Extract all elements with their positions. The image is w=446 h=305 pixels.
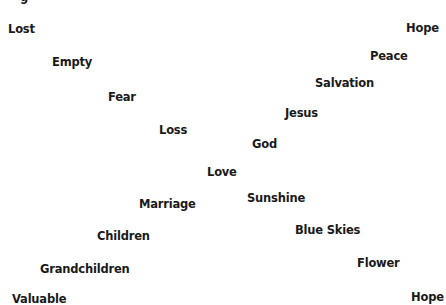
word-jesus: Jesus	[285, 106, 318, 120]
word-lost: Lost	[8, 22, 35, 36]
word-blue-skies: Blue Skies	[295, 223, 360, 237]
word-grandchildren: Grandchildren	[40, 262, 129, 276]
word-peace: Peace	[370, 49, 408, 63]
word-empty: Empty	[52, 55, 92, 69]
word-sunshine: Sunshine	[247, 191, 305, 205]
word-salvation: Salvation	[315, 76, 374, 90]
word-flower: Flower	[357, 256, 400, 270]
partial-top-glyph: g	[20, 0, 28, 4]
word-god: God	[252, 137, 277, 151]
word-loss: Loss	[159, 123, 187, 137]
word-hope-bottom: Hope	[411, 290, 444, 304]
word-fear: Fear	[108, 90, 136, 104]
word-children: Children	[97, 229, 150, 243]
word-hope-top: Hope	[406, 21, 439, 35]
word-valuable: Valuable	[12, 292, 66, 305]
word-marriage: Marriage	[139, 197, 196, 211]
word-diagram: g Lost Empty Fear Loss Love God Jesus Sa…	[0, 0, 446, 305]
word-love: Love	[207, 165, 237, 179]
